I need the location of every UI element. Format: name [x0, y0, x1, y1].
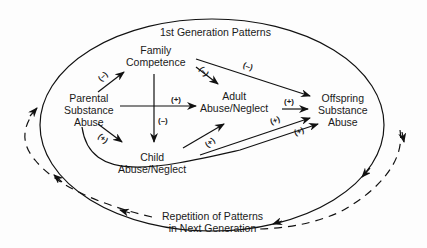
node-label: Family: [126, 44, 186, 56]
arrow-child-to-offspring: [200, 118, 310, 155]
sign-adult-offspring: (+): [284, 97, 294, 106]
node-child-abuse-neglect: Child Abuse/Neglect: [118, 151, 186, 175]
footer-line: Repetition of Patterns: [162, 210, 263, 222]
node-parental-substance-abuse: Parental Substance Abuse: [64, 92, 114, 128]
node-label: Substance: [64, 104, 114, 116]
diagram-title: 1st Generation Patterns: [160, 26, 271, 38]
node-label: Abuse: [318, 116, 368, 128]
node-label: Abuse: [64, 116, 114, 128]
sign-family-child: (–): [158, 116, 168, 125]
node-label: Abuse/Neglect: [200, 102, 268, 114]
node-family-competence: Family Competence: [126, 44, 186, 68]
footer-caption: Repetition of Patterns in Next Generatio…: [162, 210, 263, 234]
node-adult-abuse-neglect: Adult Abuse/Neglect: [200, 90, 268, 114]
node-label: Abuse/Neglect: [118, 163, 186, 175]
node-label: Substance: [318, 104, 368, 116]
arrow-child-to-adult: [183, 124, 224, 148]
sign-parental-adult: (+): [171, 95, 181, 104]
node-offspring-substance-abuse: Offspring Substance Abuse: [318, 92, 368, 128]
node-label: Adult: [200, 90, 268, 102]
node-label: Child: [118, 151, 186, 163]
node-label: Competence: [126, 56, 186, 68]
repetition-arc-right: [260, 130, 401, 229]
node-label: Parental: [64, 92, 114, 104]
node-label: Offspring: [318, 92, 368, 104]
footer-line: in Next Generation: [162, 222, 263, 234]
